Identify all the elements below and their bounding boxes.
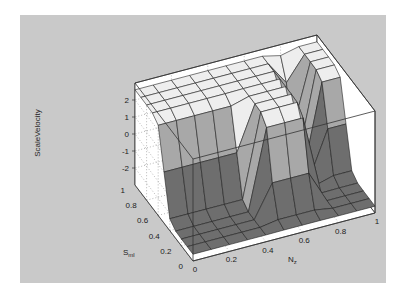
z-axis-label: ScaleVelocity xyxy=(33,109,42,157)
y-tick-label: 0.4 xyxy=(149,232,161,241)
figure-background: -2-101200.20.40.60.8100.20.40.60.81 Scal… xyxy=(20,15,386,283)
y-tick-label: 0.8 xyxy=(125,201,137,210)
y-tick-label: 1 xyxy=(121,186,126,195)
y-axis-label: Sml xyxy=(123,248,135,258)
x-tick-label: 0.2 xyxy=(226,255,238,264)
surface-plot: -2-101200.20.40.60.8100.20.40.60.81 Scal… xyxy=(20,15,386,283)
x-tick-label: 0.4 xyxy=(262,246,274,255)
x-axis-label: Nz xyxy=(288,255,297,265)
x-tick-label: 0 xyxy=(193,265,198,274)
z-tick-label: 2 xyxy=(125,96,130,105)
z-tick-label: 0 xyxy=(125,130,130,139)
z-tick-label: 1 xyxy=(125,113,130,122)
z-tick-label: -1 xyxy=(122,147,130,156)
y-tick-label: 0 xyxy=(179,262,184,271)
x-tick-label: 0.8 xyxy=(335,227,347,236)
y-tick-label: 0.6 xyxy=(137,216,149,225)
z-tick-label: -2 xyxy=(122,164,130,173)
y-tick-label: 0.2 xyxy=(160,247,172,256)
x-tick-label: 0.6 xyxy=(299,236,311,245)
x-tick-label: 1 xyxy=(375,217,380,226)
